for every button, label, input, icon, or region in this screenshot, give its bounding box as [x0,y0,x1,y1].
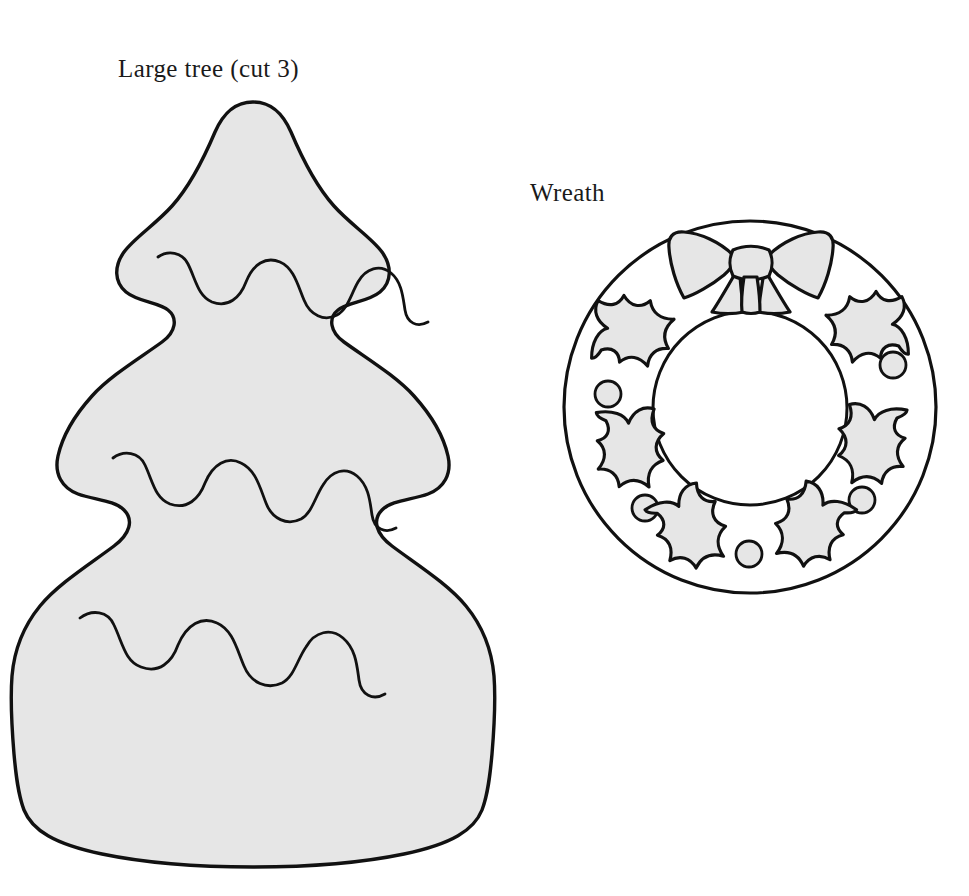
wreath-outer-circle [564,221,936,593]
bow-loop-right [768,232,833,298]
wreath-pattern [564,221,936,593]
berry-left-upper [595,381,621,407]
tree-garland-upper [158,253,428,325]
holly-leaf-bottom-right [761,471,866,572]
tree-garland-lower [80,613,385,697]
holly-leaf-upper-left [566,271,686,390]
wreath-bow [669,232,833,314]
holly-leaf-upper-right [814,267,934,386]
wreath-inner-circle [653,311,847,505]
pattern-illustrations [0,0,969,896]
bow-tail-right [758,272,790,314]
tree-pattern-label: Large tree (cut 3) [118,56,299,81]
tree-garland-middle [113,453,396,530]
tree-outline-shape [11,102,495,867]
berry-left-lower [632,495,658,521]
bow-loop-left [669,232,734,298]
wreath-berries [595,352,906,567]
holly-leaf-lower-right [813,379,933,498]
pattern-sheet: Large tree (cut 3) Wreath [0,0,969,896]
bow-center-streamer [742,277,760,314]
bow-knot [730,246,772,280]
wreath-holly-leaves [566,267,934,575]
berry-bottom-center [736,541,762,567]
large-tree-pattern [11,102,495,867]
holly-leaf-lower-left [569,382,689,501]
wreath-pattern-label: Wreath [530,180,605,205]
berry-right-upper [880,352,906,378]
holly-leaf-bottom-left [633,471,740,574]
bow-tail-left [712,272,744,314]
berry-right-lower [849,487,875,513]
